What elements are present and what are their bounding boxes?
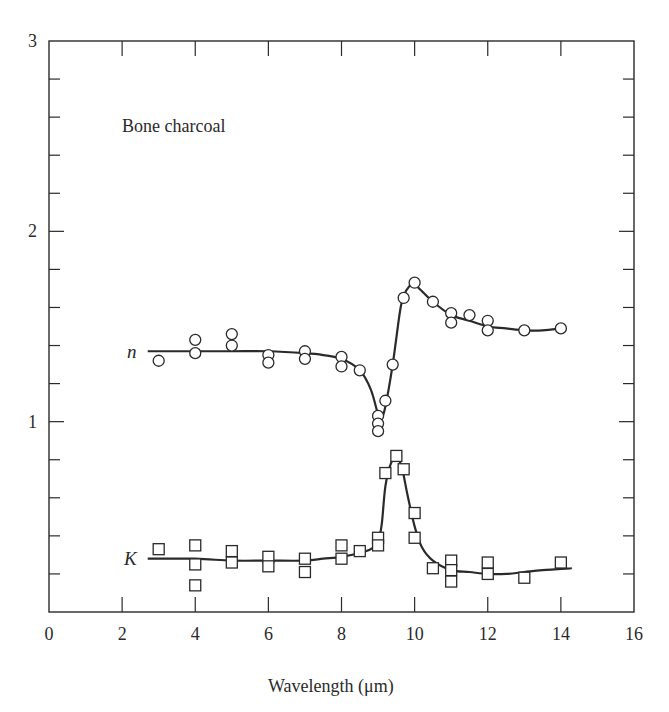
x-tick-label: 8 xyxy=(337,624,346,644)
data-point-k xyxy=(482,568,493,579)
series-label-n: n xyxy=(127,341,137,362)
x-axis-title: Wavelength (μm) xyxy=(268,676,394,697)
data-point-k xyxy=(391,450,402,461)
y-tick-label: 3 xyxy=(28,31,37,51)
x-tick-label: 10 xyxy=(406,624,424,644)
chart-annotation: Bone charcoal xyxy=(122,116,225,136)
data-point-k xyxy=(299,567,310,578)
axis-tick-labels: 0246810121416123 xyxy=(28,31,643,644)
data-point-k xyxy=(427,563,438,574)
data-point-n xyxy=(427,296,438,307)
data-point-k xyxy=(336,553,347,564)
data-point-n xyxy=(519,325,530,336)
data-point-k xyxy=(555,557,566,568)
x-tick-label: 12 xyxy=(479,624,497,644)
data-point-k xyxy=(373,540,384,551)
data-point-k xyxy=(380,468,391,479)
fit-curve-n xyxy=(148,284,561,419)
data-point-n xyxy=(153,355,164,366)
data-point-k xyxy=(190,559,201,570)
data-markers xyxy=(153,277,566,591)
data-point-k xyxy=(190,580,201,591)
data-point-k xyxy=(299,553,310,564)
chart-canvas: 0246810121416123 Bone charcoal n K Wavel… xyxy=(0,0,669,712)
x-tick-label: 2 xyxy=(118,624,127,644)
data-point-n xyxy=(482,325,493,336)
data-point-k xyxy=(398,464,409,475)
data-point-k xyxy=(354,546,365,557)
data-point-n xyxy=(190,334,201,345)
x-tick-label: 14 xyxy=(552,624,570,644)
data-point-n xyxy=(387,359,398,370)
data-point-n xyxy=(464,310,475,321)
data-point-n xyxy=(555,323,566,334)
data-point-k xyxy=(519,572,530,583)
x-tick-label: 16 xyxy=(625,624,643,644)
data-point-k xyxy=(446,565,457,576)
y-tick-label: 1 xyxy=(28,412,37,432)
data-point-k xyxy=(226,557,237,568)
data-point-n xyxy=(398,292,409,303)
x-tick-label: 4 xyxy=(191,624,200,644)
data-point-n xyxy=(380,395,391,406)
data-point-n xyxy=(263,357,274,368)
data-point-k xyxy=(153,544,164,555)
data-point-n xyxy=(226,329,237,340)
data-point-n xyxy=(336,361,347,372)
data-point-n xyxy=(190,348,201,359)
data-point-n xyxy=(446,317,457,328)
data-point-n xyxy=(373,426,384,437)
data-point-k xyxy=(482,557,493,568)
y-tick-label: 2 xyxy=(28,221,37,241)
data-point-n xyxy=(299,353,310,364)
data-point-n xyxy=(354,365,365,376)
data-point-k xyxy=(446,576,457,587)
data-point-k xyxy=(263,561,274,572)
fit-curves xyxy=(148,284,572,575)
data-point-k xyxy=(226,546,237,557)
x-tick-label: 0 xyxy=(45,624,54,644)
x-tick-label: 6 xyxy=(264,624,273,644)
series-label-k: K xyxy=(123,548,138,569)
data-point-k xyxy=(409,508,420,519)
data-point-k xyxy=(190,540,201,551)
data-point-k xyxy=(409,532,420,543)
data-point-n xyxy=(409,277,420,288)
data-point-n xyxy=(226,340,237,351)
data-point-k xyxy=(336,540,347,551)
